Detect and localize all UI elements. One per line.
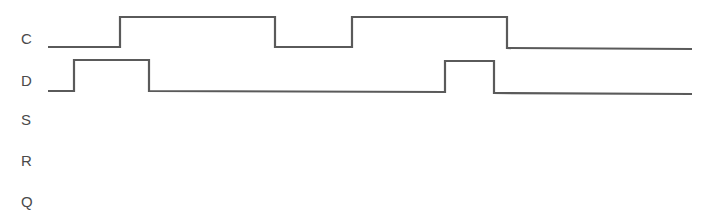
waveform-d (48, 60, 692, 94)
waveform-c (48, 17, 692, 49)
waveforms (0, 0, 719, 221)
